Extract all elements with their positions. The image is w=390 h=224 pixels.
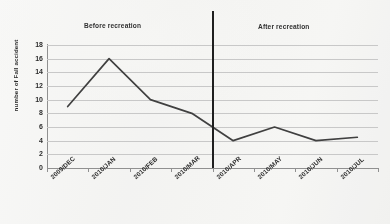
y-tick-label: 0: [27, 164, 43, 172]
y-axis-tick-labels: 181614121086420: [25, 45, 43, 168]
y-tick-label: 14: [27, 68, 43, 76]
x-tick: [171, 168, 172, 172]
y-tick-label: 16: [27, 54, 43, 62]
chart-screenshot: Before recreation After recreation numbe…: [0, 0, 390, 224]
y-tick-label: 18: [27, 41, 43, 49]
y-tick-label: 8: [27, 109, 43, 117]
after-recreation-label: After recreation: [258, 23, 310, 30]
before-recreation-label: Before recreation: [84, 22, 141, 29]
y-tick-label: 12: [27, 82, 43, 90]
x-tick: [337, 168, 338, 172]
x-tick: [254, 168, 255, 172]
y-tick-label: 10: [27, 95, 43, 103]
x-axis-ticks: [47, 168, 378, 173]
x-tick: [88, 168, 89, 172]
x-tick: [130, 168, 131, 172]
y-tick-label: 2: [27, 150, 43, 158]
y-tick-label: 6: [27, 123, 43, 131]
x-tick: [47, 168, 48, 172]
y-axis-title: number of Fall accident: [12, 22, 19, 130]
y-tick-label: 4: [27, 136, 43, 144]
intervention-divider-line: [212, 11, 214, 168]
x-tick: [213, 168, 214, 172]
x-tick: [295, 168, 296, 172]
x-tick: [378, 168, 379, 172]
